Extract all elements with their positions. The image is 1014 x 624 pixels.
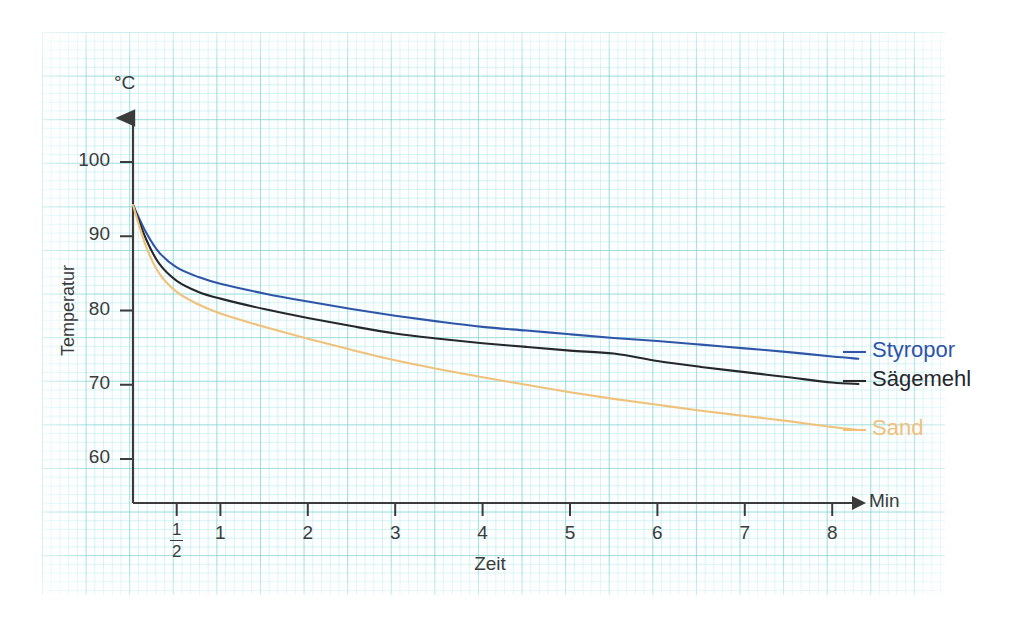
chart-curves — [133, 205, 858, 430]
series-line-sand — [133, 205, 858, 430]
x-tick-label: 6 — [637, 522, 677, 544]
legend-label-styropor: Styropor — [872, 337, 955, 363]
legend-label-sgemehl: Sägemehl — [872, 366, 971, 392]
x-tick-label: 5 — [550, 522, 590, 544]
x-axis-title: Zeit — [400, 553, 580, 575]
legend-line-swatches — [843, 352, 866, 430]
x-tick-label: 4 — [463, 522, 503, 544]
y-axis-unit-label: °C — [114, 72, 135, 94]
x-tick-label: 3 — [375, 522, 415, 544]
series-line-sgemehl — [133, 205, 858, 384]
x-tick-label: 7 — [725, 522, 765, 544]
y-tick-label: 90 — [28, 223, 110, 245]
chart-page: °C Min Temperatur Zeit 60708090100121234… — [0, 0, 1014, 624]
line-chart-plot — [0, 0, 1014, 624]
x-tick-label: 2 — [288, 522, 328, 544]
legend-label-sand: Sand — [872, 415, 923, 441]
x-tick-label: 1 — [200, 522, 240, 544]
x-tick-label-half: 12 — [161, 521, 193, 560]
x-axis-unit-label: Min — [869, 490, 900, 512]
y-tick-label: 100 — [28, 149, 110, 171]
series-line-styropor — [133, 205, 858, 359]
x-tick-label: 8 — [812, 522, 852, 544]
y-tick-label: 80 — [28, 298, 110, 320]
x-axis-arrow — [852, 496, 866, 510]
y-tick-label: 70 — [28, 372, 110, 394]
y-tick-label: 60 — [28, 446, 110, 468]
